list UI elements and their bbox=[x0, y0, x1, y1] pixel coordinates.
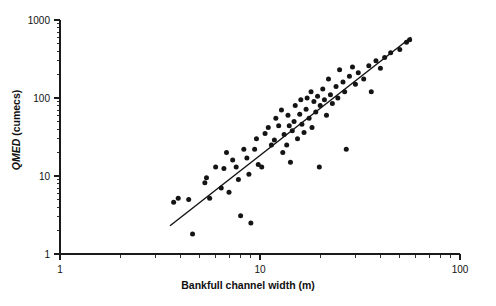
data-point bbox=[313, 110, 318, 115]
x-tick-label: 10 bbox=[254, 264, 266, 275]
data-point bbox=[246, 172, 251, 177]
data-point bbox=[337, 67, 342, 72]
data-point bbox=[221, 166, 226, 171]
data-point bbox=[350, 64, 355, 69]
x-tick-label: 1 bbox=[57, 264, 63, 275]
data-point bbox=[335, 96, 340, 101]
data-points bbox=[171, 37, 412, 236]
data-point bbox=[311, 99, 316, 104]
data-point bbox=[369, 89, 374, 94]
data-point bbox=[252, 147, 257, 152]
data-point bbox=[330, 101, 335, 106]
y-tick-label: 1000 bbox=[28, 15, 51, 26]
data-point bbox=[263, 131, 268, 136]
data-point bbox=[176, 196, 181, 201]
data-point bbox=[238, 213, 243, 218]
data-point bbox=[266, 125, 271, 130]
data-point bbox=[317, 165, 322, 170]
data-point bbox=[388, 50, 393, 55]
data-point bbox=[324, 113, 329, 118]
data-point bbox=[302, 130, 307, 135]
x-tick-label: 100 bbox=[452, 264, 469, 275]
data-point bbox=[279, 108, 284, 113]
data-point bbox=[298, 97, 303, 102]
data-point bbox=[269, 142, 274, 147]
data-point bbox=[202, 180, 207, 185]
data-point bbox=[276, 123, 281, 128]
data-point bbox=[334, 84, 339, 89]
data-point bbox=[305, 96, 310, 101]
data-point bbox=[248, 220, 253, 225]
data-point bbox=[407, 37, 412, 42]
data-point bbox=[288, 160, 293, 165]
data-point bbox=[171, 200, 176, 205]
data-point bbox=[315, 94, 320, 99]
svg-text:QMED (cumecs): QMED (cumecs) bbox=[10, 90, 22, 171]
data-point bbox=[234, 165, 239, 170]
data-point bbox=[290, 128, 295, 133]
data-point bbox=[204, 175, 209, 180]
data-point bbox=[254, 136, 259, 141]
data-point bbox=[310, 125, 315, 130]
data-point bbox=[292, 119, 297, 124]
data-point bbox=[273, 116, 278, 121]
y-tick-label: 100 bbox=[33, 93, 50, 104]
data-point bbox=[293, 103, 298, 108]
data-point bbox=[241, 147, 246, 152]
data-point bbox=[297, 112, 302, 117]
data-point bbox=[213, 165, 218, 170]
y-tick-label: 1 bbox=[44, 249, 50, 260]
data-point bbox=[236, 177, 241, 182]
data-point bbox=[304, 107, 309, 112]
data-point bbox=[272, 137, 277, 142]
x-axis-title: Bankfull channel width (m) bbox=[181, 279, 315, 291]
data-point bbox=[227, 190, 232, 195]
data-point bbox=[244, 156, 249, 161]
data-point bbox=[361, 77, 366, 82]
data-point bbox=[342, 89, 347, 94]
data-point bbox=[285, 113, 290, 118]
data-point bbox=[397, 47, 402, 52]
data-point bbox=[230, 158, 235, 163]
data-point bbox=[224, 150, 229, 155]
data-point bbox=[282, 132, 287, 137]
data-point bbox=[219, 186, 224, 191]
data-point bbox=[280, 150, 285, 155]
data-point bbox=[284, 142, 289, 147]
data-point bbox=[347, 74, 352, 79]
data-point bbox=[322, 97, 327, 102]
data-point bbox=[307, 116, 312, 121]
y-axis-title: QMED (cumecs) bbox=[10, 90, 22, 171]
data-point bbox=[340, 80, 345, 85]
data-point bbox=[207, 196, 212, 201]
data-point bbox=[320, 87, 325, 92]
data-point bbox=[353, 82, 358, 87]
data-point bbox=[186, 197, 191, 202]
data-point bbox=[378, 66, 383, 71]
data-point bbox=[287, 123, 292, 128]
chart-figure: 1101001101001000 Bankfull channel width … bbox=[0, 0, 496, 306]
data-point bbox=[309, 89, 314, 94]
data-point bbox=[356, 70, 361, 75]
data-point bbox=[295, 136, 300, 141]
data-point bbox=[190, 232, 195, 237]
data-point bbox=[299, 122, 304, 127]
data-point bbox=[259, 165, 264, 170]
data-point bbox=[318, 103, 323, 108]
data-point bbox=[366, 63, 371, 68]
data-point bbox=[373, 58, 378, 63]
scatter-plot: 1101001101001000 Bankfull channel width … bbox=[0, 0, 496, 306]
data-point bbox=[326, 77, 331, 82]
data-point bbox=[344, 147, 349, 152]
data-point bbox=[382, 55, 387, 60]
y-tick-label: 10 bbox=[39, 171, 51, 182]
data-point bbox=[328, 92, 333, 97]
